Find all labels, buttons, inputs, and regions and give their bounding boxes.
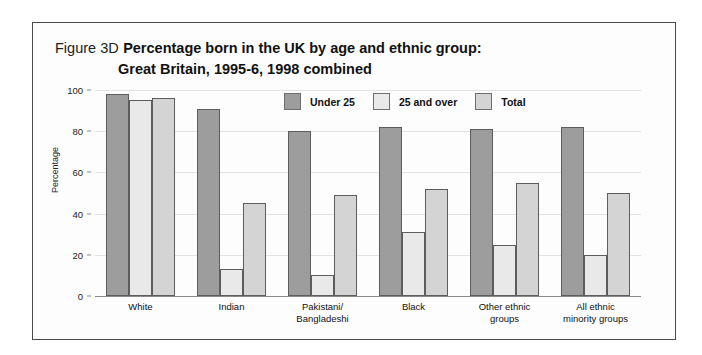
bar[interactable] — [493, 245, 516, 297]
bar-group-3 — [368, 90, 459, 296]
x-axis-label-2: Pakistani/Bangladeshi — [277, 301, 368, 325]
bar[interactable] — [243, 203, 266, 296]
plot-area — [95, 90, 641, 296]
x-axis-label-line: Pakistani/ — [277, 301, 368, 313]
x-axis-label-line: All ethnic — [550, 301, 641, 313]
bar[interactable] — [516, 183, 539, 296]
bar[interactable] — [311, 275, 334, 296]
bar[interactable] — [106, 94, 129, 296]
y-axis-tick-labels: 020406080100 — [33, 90, 91, 296]
y-tick-mark-0 — [87, 296, 91, 297]
x-axis-label-5: All ethnicminority groups — [550, 301, 641, 325]
y-tick-label-20: 20 — [72, 249, 83, 260]
y-tick-label-60: 60 — [72, 167, 83, 178]
x-axis-label-line: groups — [459, 313, 550, 325]
bar[interactable] — [129, 100, 152, 296]
x-axis-label-1: Indian — [186, 301, 277, 325]
x-axis-label-line: Bangladeshi — [277, 313, 368, 325]
bar-group-bars-1 — [186, 90, 277, 296]
x-axis-category-labels: WhiteIndianPakistani/BangladeshiBlackOth… — [95, 301, 641, 325]
y-tick-label-100: 100 — [67, 85, 83, 96]
y-tick-label-0: 0 — [78, 291, 83, 302]
gridline-0 — [95, 296, 641, 297]
figure-frame: Figure 3D Percentage born in the UK by a… — [32, 22, 676, 340]
bar-group-bars-4 — [459, 90, 550, 296]
y-tick-mark-80 — [87, 131, 91, 132]
bar-group-bars-5 — [550, 90, 641, 296]
bar-group-1 — [186, 90, 277, 296]
y-tick-mark-20 — [87, 254, 91, 255]
bar[interactable] — [561, 127, 584, 296]
bar[interactable] — [607, 193, 630, 296]
bar-group-5 — [550, 90, 641, 296]
bar[interactable] — [470, 129, 493, 296]
bar[interactable] — [288, 131, 311, 296]
bar-group-bars-2 — [277, 90, 368, 296]
x-axis-label-line: Other ethnic — [459, 301, 550, 313]
bar[interactable] — [334, 195, 357, 296]
y-tick-mark-100 — [87, 90, 91, 91]
x-axis-label-0: White — [95, 301, 186, 325]
x-axis-label-3: Black — [368, 301, 459, 325]
bar-group-0 — [95, 90, 186, 296]
bar[interactable] — [402, 232, 425, 296]
x-axis-label-line: Black — [368, 301, 459, 313]
bar[interactable] — [197, 109, 220, 296]
bar[interactable] — [220, 269, 243, 296]
y-tick-mark-40 — [87, 213, 91, 214]
x-axis-label-4: Other ethnicgroups — [459, 301, 550, 325]
x-axis-label-line: Indian — [186, 301, 277, 313]
bar[interactable] — [425, 189, 448, 296]
bar-group-bars-3 — [368, 90, 459, 296]
bar-groups — [95, 90, 641, 296]
bar[interactable] — [152, 98, 175, 296]
bar[interactable] — [379, 127, 402, 296]
bar-group-bars-0 — [95, 90, 186, 296]
bar-group-2 — [277, 90, 368, 296]
plot-wrapper: Percentage 020406080100 WhiteIndianPakis… — [33, 23, 677, 341]
y-tick-label-40: 40 — [72, 208, 83, 219]
y-tick-label-80: 80 — [72, 126, 83, 137]
bar-group-4 — [459, 90, 550, 296]
bar[interactable] — [584, 255, 607, 296]
x-axis-label-line: White — [95, 301, 186, 313]
x-axis-label-line: minority groups — [550, 313, 641, 325]
y-tick-mark-60 — [87, 172, 91, 173]
